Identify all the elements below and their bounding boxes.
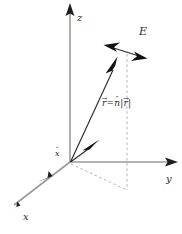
z-axis-label: z — [77, 13, 82, 23]
y-axis — [70, 158, 178, 167]
field-double-arrow — [104, 43, 148, 62]
hat-accent-unit: ˆ — [115, 96, 119, 103]
equation-bar-close: | — [128, 98, 131, 108]
projection-dashed-lines — [71, 54, 127, 190]
origin-unit-vector-label: ˆx — [55, 150, 60, 158]
position-vector — [71, 57, 118, 163]
field-label: E — [139, 26, 147, 37]
arrow-accent-lhs: → — [102, 95, 107, 102]
x-axis-label: x — [23, 212, 29, 222]
equation-relation: = — [107, 98, 115, 108]
hat-accent-origin: ˆ — [56, 147, 59, 154]
unit-vector — [71, 140, 100, 163]
vector-equation: →r=ˆn|→r| — [102, 99, 131, 108]
diagram-canvas — [0, 0, 182, 234]
z-axis — [66, 3, 75, 162]
vector-diagram: z y x ˆx E →r=ˆn|→r| — [0, 0, 182, 234]
y-axis-label: y — [166, 174, 172, 184]
x-axis — [8, 162, 71, 210]
arrow-accent-magnitude: → — [123, 95, 128, 102]
